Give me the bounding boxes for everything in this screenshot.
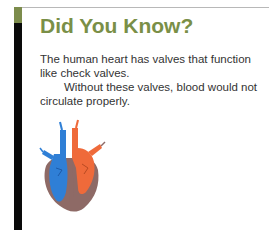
sidebar-title: Did You Know? [40, 14, 193, 38]
accent-bar-top [14, 7, 22, 23]
accent-bar [14, 23, 22, 230]
heart-diagram-icon [38, 118, 108, 218]
top-rule [14, 7, 269, 8]
paragraph-2: Without these valves, blood would not ci… [40, 80, 265, 108]
paragraph-1: The human heart has valves that function… [40, 52, 265, 80]
